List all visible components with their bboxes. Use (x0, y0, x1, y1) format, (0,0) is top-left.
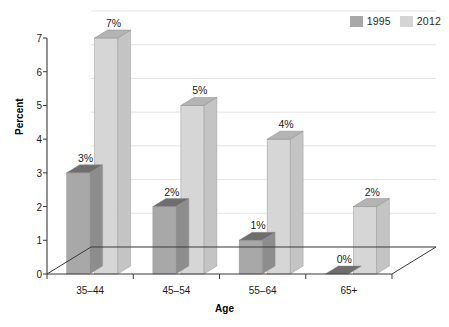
bar-chart: 1995 2012 Percent Age 01234567 35–4445–5… (0, 0, 449, 327)
plot-area (0, 0, 449, 327)
